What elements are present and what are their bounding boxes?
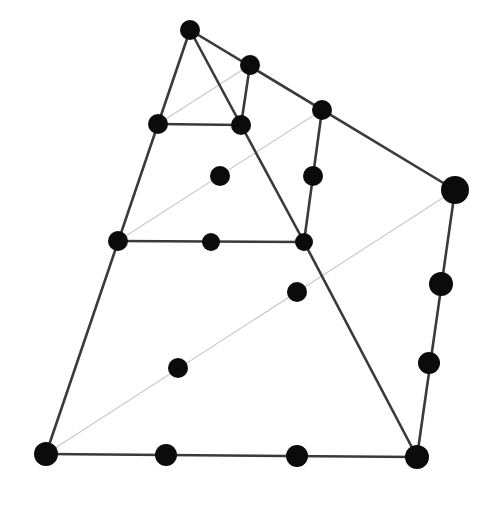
node-n7 [210,166,230,186]
nodes-group [34,20,469,469]
node-n14 [429,272,453,296]
node-n6 [231,115,251,135]
node-n13 [168,358,188,378]
solid-edge [241,125,304,242]
node-n17 [155,444,177,466]
node-n2 [240,55,260,75]
solid-edge [304,242,417,457]
node-n3 [312,100,332,120]
solid-edge [158,124,241,125]
node-n15 [418,352,440,374]
node-n8 [303,166,323,186]
solid-edge [417,190,455,457]
node-n12 [287,282,307,302]
node-n9 [108,231,128,251]
node-n19 [405,445,429,469]
node-n5 [148,114,168,134]
solid-edge [46,454,417,457]
node-n10 [202,233,220,251]
node-n11 [295,233,313,251]
node-n1 [180,20,200,40]
tetrahedron-node-diagram [0,0,490,522]
node-n4 [441,176,469,204]
solid-edges-group [46,30,455,457]
node-n16 [34,442,58,466]
node-n18 [286,445,308,467]
